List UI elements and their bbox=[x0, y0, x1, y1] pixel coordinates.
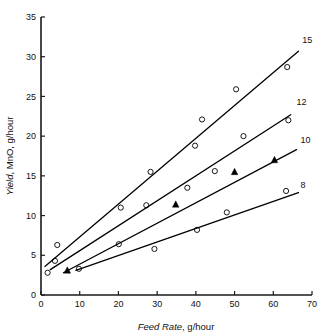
y-tick-label: 25 bbox=[26, 92, 36, 102]
series-label-8: 8 bbox=[300, 180, 305, 190]
data-point-circle bbox=[283, 188, 288, 193]
series-10 bbox=[63, 150, 296, 274]
trend-line-12 bbox=[50, 115, 290, 270]
y-tick-label: 20 bbox=[26, 131, 36, 141]
y-tick-label: 10 bbox=[26, 211, 36, 221]
y-axis-title: Yield, MnO, g/hour bbox=[4, 116, 15, 195]
series-end-labels: 1512108 bbox=[297, 35, 313, 190]
axes bbox=[41, 17, 312, 295]
data-point-circle bbox=[118, 205, 123, 210]
data-point-circle bbox=[55, 242, 60, 247]
scatter-chart-figure: 05101520253035010203040506070 1512108 Fe… bbox=[0, 0, 329, 336]
series-12 bbox=[50, 115, 291, 270]
chart-canvas: 05101520253035010203040506070 1512108 Fe… bbox=[0, 0, 329, 336]
data-point-circle bbox=[241, 134, 246, 139]
x-tick-label: 50 bbox=[230, 299, 240, 309]
x-tick-label: 70 bbox=[307, 299, 317, 309]
data-point-triangle bbox=[231, 168, 238, 174]
data-point-circle bbox=[148, 169, 153, 174]
data-point-circle bbox=[192, 143, 197, 148]
data-point-circle bbox=[224, 210, 229, 215]
x-tick-label: 0 bbox=[38, 299, 43, 309]
data-point-circle bbox=[234, 87, 239, 92]
y-tick-label: 35 bbox=[26, 12, 36, 22]
data-point-circle bbox=[45, 270, 50, 275]
axis-ticks bbox=[41, 17, 312, 295]
data-point-circle bbox=[152, 246, 157, 251]
data-point-circle bbox=[285, 64, 290, 69]
trend-line-15 bbox=[45, 51, 299, 266]
series-label-12: 12 bbox=[297, 97, 307, 107]
series-label-10: 10 bbox=[300, 135, 310, 145]
series-15 bbox=[45, 51, 299, 266]
y-tick-label: 0 bbox=[31, 290, 36, 300]
y-tick-label: 30 bbox=[26, 52, 36, 62]
data-point-circle bbox=[52, 258, 57, 263]
data-series bbox=[45, 51, 299, 275]
y-tick-label: 15 bbox=[26, 171, 36, 181]
data-point-circle bbox=[286, 118, 291, 123]
x-tick-label: 60 bbox=[268, 299, 278, 309]
data-point-circle bbox=[185, 185, 190, 190]
x-axis-title: Feed Rate, g/hour bbox=[138, 321, 215, 332]
x-tick-label: 40 bbox=[191, 299, 201, 309]
x-tick-label: 20 bbox=[113, 299, 123, 309]
x-tick-label: 10 bbox=[75, 299, 85, 309]
data-point-triangle bbox=[172, 201, 179, 207]
y-tick-label: 5 bbox=[31, 250, 36, 260]
data-point-circle bbox=[199, 117, 204, 122]
x-tick-label: 30 bbox=[152, 299, 162, 309]
data-point-circle bbox=[212, 168, 217, 173]
series-label-15: 15 bbox=[302, 35, 312, 45]
trend-line-10 bbox=[63, 150, 296, 273]
